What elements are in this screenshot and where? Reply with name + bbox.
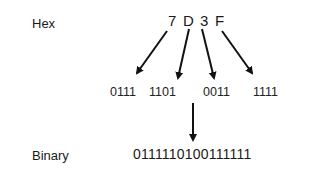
- arrow-3: [202, 29, 214, 78]
- nibble-1101: 1101: [149, 85, 176, 99]
- arrow-d: [178, 29, 189, 78]
- nibble-1111: 1111: [253, 85, 278, 99]
- nibble-0111: 0111: [110, 85, 136, 99]
- arrow-7: [137, 31, 167, 73]
- binary-value: 0111110100111111: [133, 146, 251, 162]
- nibble-0011: 0011: [203, 85, 230, 99]
- binary-label: Binary: [32, 148, 69, 163]
- arrow-f: [222, 31, 252, 73]
